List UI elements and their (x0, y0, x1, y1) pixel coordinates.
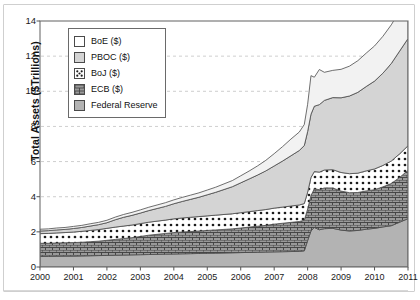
y-tick-label: 6 (14, 157, 36, 167)
y-tick-label: 8 (14, 121, 36, 131)
x-tick-label: 2004 (157, 273, 191, 282)
x-tick-label: 2005 (190, 273, 224, 282)
x-tick-label: 2010 (358, 273, 392, 282)
x-tick-label: 2009 (324, 273, 358, 282)
ecb-swatch-icon (74, 84, 85, 95)
legend-item-boe[interactable]: BoE ($) (74, 33, 160, 49)
y-axis-tick-labels: 02468101214 (0, 0, 36, 300)
x-tick-label: 2007 (257, 273, 291, 282)
y-tick-label: 14 (14, 16, 36, 26)
legend-item-federal-reserve[interactable]: Federal Reserve (74, 97, 160, 113)
legend-item-ecb[interactable]: ECB ($) (74, 81, 160, 97)
y-tick-label: 12 (14, 51, 36, 61)
legend-label-ecb: ECB ($) (91, 85, 123, 94)
legend-item-boj[interactable]: BoJ ($) (74, 65, 160, 81)
boe-swatch-icon (74, 36, 85, 47)
legend-label-boj: BoJ ($) (91, 69, 120, 78)
boj-swatch-icon (74, 68, 85, 79)
x-tick-label: 2011 (391, 273, 420, 282)
legend-label-federal-reserve: Federal Reserve (91, 101, 158, 110)
x-tick-label: 2008 (291, 273, 325, 282)
x-tick-label: 2003 (123, 273, 157, 282)
legend-label-pboc: PBOC ($) (91, 53, 130, 62)
legend-item-pboc[interactable]: PBOC ($) (74, 49, 160, 65)
y-tick-label: 4 (14, 192, 36, 202)
x-tick-label: 2006 (224, 273, 258, 282)
legend-label-boe: BoE ($) (91, 37, 122, 46)
chart-page: Total Assets ($Trillions) 02468101214 20… (0, 0, 420, 300)
y-tick-label: 2 (14, 227, 36, 237)
y-tick-label: 0 (14, 262, 36, 272)
plot-canvas (0, 0, 420, 300)
y-tick-label: 10 (14, 86, 36, 96)
x-tick-label: 2001 (56, 273, 90, 282)
x-tick-label: 2000 (23, 273, 57, 282)
pboc-swatch-icon (74, 52, 85, 63)
x-tick-label: 2002 (90, 273, 124, 282)
chart-legend: BoE ($) PBOC ($) BoJ ($) (68, 28, 166, 118)
fed-swatch-icon (74, 100, 85, 111)
stacked-area-chart: Total Assets ($Trillions) 02468101214 20… (0, 0, 420, 300)
